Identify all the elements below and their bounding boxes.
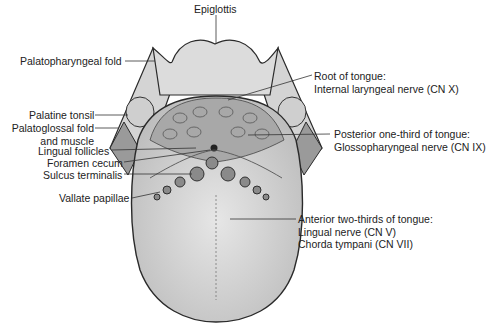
label-anterior-two-thirds-line3: Chorda tympani (CN VII): [298, 238, 433, 251]
label-root-of-tongue-line2: Internal laryngeal nerve (CN X): [314, 83, 459, 96]
label-palatoglossal-fold: Palatoglossal fold and muscle: [10, 122, 94, 147]
label-palatopharyngeal-fold: Palatopharyngeal fold: [20, 55, 122, 68]
label-root-of-tongue: Root of tongue: Internal laryngeal nerve…: [314, 70, 459, 95]
label-vallate-papillae: Vallate papillae: [59, 192, 129, 205]
label-epiglottis: Epiglottis: [194, 3, 237, 16]
label-anterior-two-thirds-line1: Anterior two-thirds of tongue:: [298, 213, 433, 226]
tongue-diagram: Epiglottis Palatopharyngeal fold Palatin…: [0, 0, 498, 324]
label-palatine-tonsil: Palatine tonsil: [29, 109, 94, 122]
label-posterior-third-line2: Glossopharyngeal nerve (CN IX): [334, 141, 486, 154]
label-lingual-follicles: Lingual follicles: [38, 145, 109, 158]
label-foramen-cecum: Foramen cecum: [47, 157, 123, 170]
label-anterior-two-thirds: Anterior two-thirds of tongue: Lingual n…: [298, 213, 433, 251]
label-palatoglossal-fold-line1: Palatoglossal fold: [10, 122, 94, 135]
label-anterior-two-thirds-line2: Lingual nerve (CN V): [298, 226, 433, 239]
label-posterior-third-line1: Posterior one-third of tongue:: [334, 128, 486, 141]
epiglottis-shape: [153, 40, 278, 95]
label-sulcus-terminalis: Sulcus terminalis: [43, 169, 122, 182]
label-root-of-tongue-line1: Root of tongue:: [314, 70, 459, 83]
label-posterior-third: Posterior one-third of tongue: Glossopha…: [334, 128, 486, 153]
